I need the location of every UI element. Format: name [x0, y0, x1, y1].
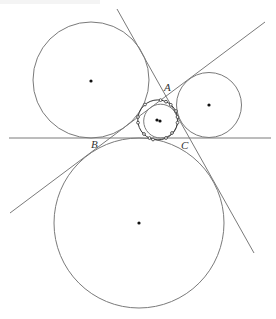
nine-point-mark [148, 137, 151, 140]
nine-point-mark [159, 99, 162, 102]
nine-point-mark [137, 121, 140, 124]
nine-point-mark [144, 103, 147, 106]
nine-point-mark [137, 116, 140, 119]
center-dot [89, 79, 92, 82]
nine-point-mark [171, 132, 174, 135]
nine-point-mark [152, 138, 155, 141]
circles-group [33, 22, 242, 308]
center-dot [158, 119, 161, 122]
center-dot [207, 103, 210, 106]
vertex-label-b: B [91, 138, 98, 150]
nine-point-mark [143, 133, 146, 136]
geometry-diagram: A B C [0, 0, 276, 319]
nine-point-mark [175, 110, 178, 113]
nine-point-mark [165, 137, 168, 140]
center-dot [137, 221, 140, 224]
center-dot [155, 118, 158, 121]
nine-point-mark [165, 100, 168, 103]
nine-point-mark [176, 116, 179, 119]
vertex-label-c: C [181, 139, 189, 151]
vertex-label-a: A [163, 81, 171, 93]
nine-point-mark [169, 103, 172, 106]
nine-point-mark [176, 121, 179, 124]
triangle-side-lines [9, 9, 271, 253]
